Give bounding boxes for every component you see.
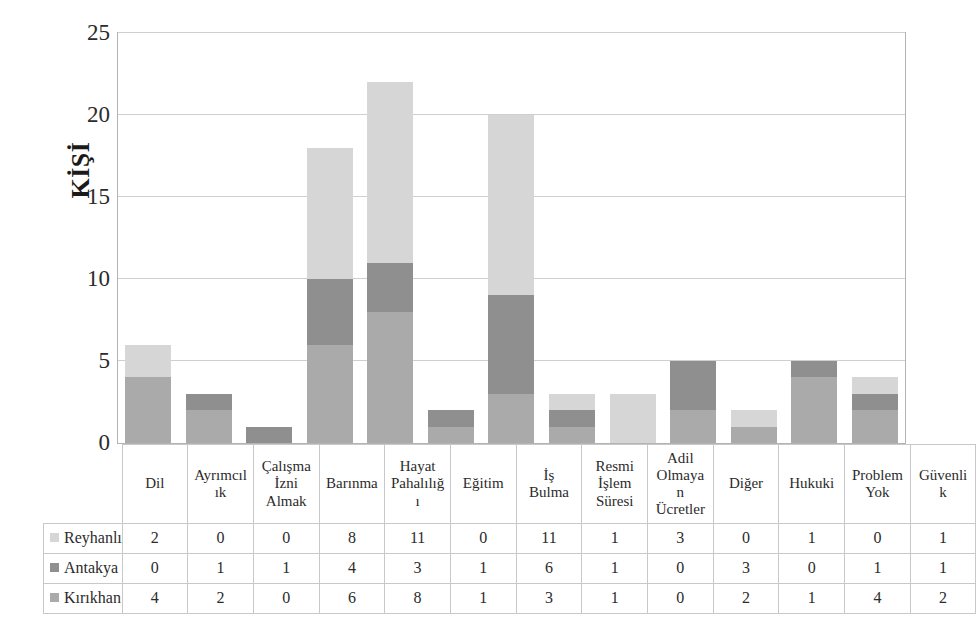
y-tick-label-5: 5	[64, 349, 110, 372]
table-cell: 1	[582, 584, 648, 614]
bar-stack	[186, 394, 232, 443]
bar-segment	[791, 377, 837, 443]
table-cell: 4	[319, 554, 385, 584]
legend-item-kırıkhan[interactable]: Kırıkhan	[44, 584, 123, 614]
table-body: Reyhanlı200811011130101Antakya0114316103…	[44, 524, 976, 614]
table-cell: 2	[122, 524, 188, 554]
legend-item-reyhanlı[interactable]: Reyhanlı	[44, 524, 123, 554]
bar-segment	[731, 427, 777, 443]
table-cell: 1	[253, 554, 319, 584]
bar-stack	[307, 148, 353, 443]
bar-segment	[186, 410, 232, 443]
bar-segment	[549, 427, 595, 443]
bar-group	[179, 33, 240, 443]
table-column-header-line: Güvenli	[913, 467, 974, 484]
bar-segment	[488, 295, 534, 393]
bar-group	[239, 33, 300, 443]
table-column-header: Eğitim	[450, 445, 516, 524]
table-column-header-line: Süresi	[584, 493, 645, 510]
plot-area	[117, 32, 906, 444]
table-column-header-line: Hayat	[387, 458, 448, 475]
bar-stack	[125, 345, 171, 443]
table-column-header-line: Diğer	[716, 475, 777, 492]
table-cell: 3	[385, 554, 451, 584]
table-column-header-line: Çalışma	[256, 458, 317, 475]
bar-stack	[488, 115, 534, 443]
bar-segment	[246, 427, 292, 443]
table-cell: 2	[713, 584, 779, 614]
table-column-header-line: Bulma	[519, 484, 580, 501]
table-row: Reyhanlı200811011130101	[44, 524, 976, 554]
y-tick-label-25: 25	[64, 21, 110, 44]
bar-segment	[791, 361, 837, 377]
table-header: DilAyrımcılıkÇalışmaİzniAlmakBarınmaHaya…	[44, 445, 976, 524]
y-tick-label-20: 20	[64, 103, 110, 126]
legend-item-label: Reyhanlı	[64, 529, 122, 546]
table-column-header: Diğer	[713, 445, 779, 524]
y-axis-tick-labels: 2520151050	[60, 0, 110, 460]
table-cell: 0	[188, 524, 254, 554]
bar-segment	[549, 410, 595, 426]
table-cell: 0	[450, 524, 516, 554]
legend-item-label: Antakya	[64, 559, 118, 576]
table-header-corner	[44, 445, 123, 524]
bar-segment	[307, 148, 353, 279]
bar-segment	[367, 82, 413, 262]
table-cell: 1	[582, 524, 648, 554]
table-column-header-line: Resmi	[584, 458, 645, 475]
y-tick-label-15: 15	[64, 185, 110, 208]
table-cell: 0	[648, 584, 714, 614]
bar-segment	[125, 377, 171, 443]
table-cell: 11	[516, 524, 582, 554]
bar-group	[844, 33, 905, 443]
table-column-header-line: ık	[190, 484, 251, 501]
bar-stack	[670, 361, 716, 443]
bar-segment	[852, 410, 898, 443]
table-row: Antakya0114316103011	[44, 554, 976, 584]
table-cell: 1	[779, 584, 845, 614]
bar-group	[602, 33, 663, 443]
bar-segment	[852, 394, 898, 410]
table-header-row: DilAyrımcılıkÇalışmaİzniAlmakBarınmaHaya…	[44, 445, 976, 524]
table-column-header-line: Hukuki	[781, 475, 842, 492]
legend-item-antakya[interactable]: Antakya	[44, 554, 123, 584]
table-column-header: Hukuki	[779, 445, 845, 524]
bar-segment	[549, 394, 595, 410]
table-column-header: Güvenlik	[910, 445, 976, 524]
bar-stack	[852, 377, 898, 443]
table-cell: 8	[319, 524, 385, 554]
table-column-header: Ayrımcılık	[188, 445, 254, 524]
table-cell: 4	[845, 584, 911, 614]
table-column-header-line: Adil	[650, 450, 711, 467]
table-cell: 3	[648, 524, 714, 554]
y-tick-label-10: 10	[64, 267, 110, 290]
bar-group	[784, 33, 845, 443]
table-column-header-line: Ücretler	[650, 501, 711, 518]
bar-group	[481, 33, 542, 443]
table-cell: 0	[253, 524, 319, 554]
bar-stack	[791, 361, 837, 443]
bar-group	[723, 33, 784, 443]
bar-stack	[610, 394, 656, 443]
table-cell: 6	[319, 584, 385, 614]
table-cell: 0	[253, 584, 319, 614]
table-cell: 1	[188, 554, 254, 584]
table-column-header-line: Yok	[847, 484, 908, 501]
legend-swatch-icon	[50, 533, 59, 542]
table-column-header-line: Pahalılığ	[387, 475, 448, 492]
table-column-header-line: Dil	[125, 475, 186, 492]
bar-segment	[307, 345, 353, 443]
table-cell: 3	[713, 554, 779, 584]
table-cell: 1	[450, 554, 516, 584]
table-cell: 1	[779, 524, 845, 554]
table-column-header: İşBulma	[516, 445, 582, 524]
table-column-header-line: n	[650, 484, 711, 501]
table-cell: 0	[713, 524, 779, 554]
legend-item-label: Kırıkhan	[64, 589, 121, 606]
legend-swatch-icon	[50, 563, 59, 572]
table-cell: 11	[385, 524, 451, 554]
bar-group	[663, 33, 724, 443]
table-column-header-line: İzni	[256, 475, 317, 492]
bar-segment	[307, 279, 353, 345]
table-cell: 4	[122, 584, 188, 614]
